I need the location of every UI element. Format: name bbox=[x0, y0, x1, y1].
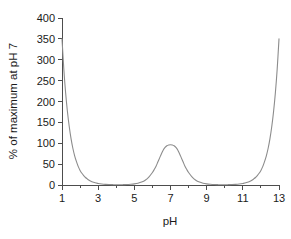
y-tick-label-400: 400 bbox=[37, 12, 55, 24]
y-tick-label-350: 350 bbox=[37, 33, 55, 45]
x-axis-title: pH bbox=[163, 215, 178, 227]
y-tick-label-250: 250 bbox=[37, 75, 55, 87]
y-tick-label-300: 300 bbox=[37, 54, 55, 66]
x-tick-label-3: 3 bbox=[95, 192, 101, 204]
y-tick-label-150: 150 bbox=[37, 116, 55, 128]
y-tick-label-0: 0 bbox=[49, 179, 55, 191]
x-tick-label-13: 13 bbox=[273, 192, 285, 204]
chart-figure: 050100150200250300350400 135791113 pH % … bbox=[0, 0, 291, 239]
x-tick-label-1: 1 bbox=[59, 192, 65, 204]
x-tick-label-5: 5 bbox=[131, 192, 137, 204]
x-tick-label-11: 11 bbox=[237, 192, 248, 204]
chart-plot-svg: 050100150200250300350400 135791113 pH % … bbox=[0, 0, 291, 239]
y-tick-label-50: 50 bbox=[43, 158, 55, 170]
y-tick-label-100: 100 bbox=[37, 137, 55, 149]
y-tick-label-200: 200 bbox=[37, 96, 55, 108]
y-axis-title: % of maximum at pH 7 bbox=[7, 43, 19, 159]
x-tick-label-9: 9 bbox=[204, 192, 210, 204]
x-tick-label-7: 7 bbox=[167, 192, 173, 204]
